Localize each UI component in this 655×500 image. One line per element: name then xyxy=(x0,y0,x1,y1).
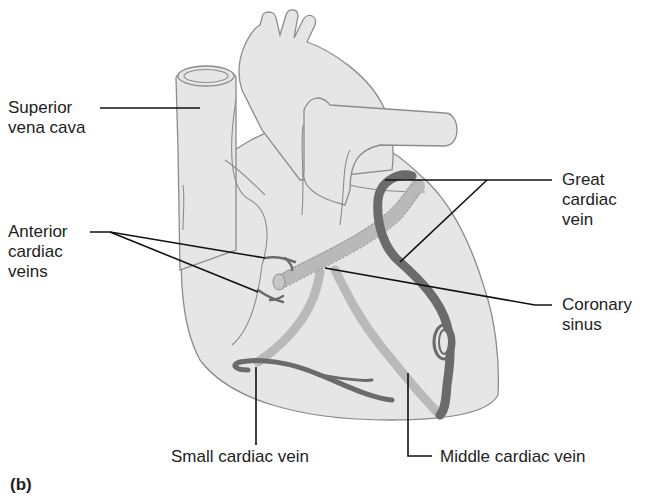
label-line: cardiac xyxy=(8,242,68,262)
label-line: sinus xyxy=(562,315,632,335)
label-anterior-cardiac-veins: Anterior cardiac veins xyxy=(8,222,68,282)
label-line: Small cardiac vein xyxy=(171,447,309,467)
label-line: cardiac xyxy=(562,190,617,210)
label-line: Anterior xyxy=(8,222,68,242)
label-line: vein xyxy=(562,210,617,230)
label-middle-cardiac-vein: Middle cardiac vein xyxy=(440,447,586,467)
label-line: Great xyxy=(562,170,617,190)
label-line: veins xyxy=(8,262,68,282)
coronary-sinus-stump xyxy=(273,274,285,290)
label-line: Coronary xyxy=(562,295,632,315)
label-great-cardiac-vein: Great cardiac vein xyxy=(562,170,617,230)
label-small-cardiac-vein: Small cardiac vein xyxy=(171,447,309,467)
label-line: Superior xyxy=(8,98,86,118)
heart-diagram xyxy=(0,0,655,500)
label-superior-vena-cava: Superior vena cava xyxy=(8,98,86,138)
label-line: vena cava xyxy=(8,118,86,138)
label-line: Middle cardiac vein xyxy=(440,447,586,467)
label-coronary-sinus: Coronary sinus xyxy=(562,295,632,335)
panel-letter: (b) xyxy=(10,475,32,495)
